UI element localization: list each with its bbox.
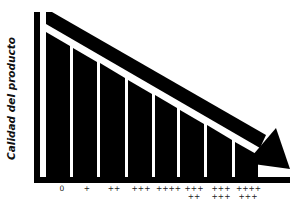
quality-decline-diagram: [0, 0, 301, 208]
bar-2: [73, 48, 97, 177]
bar-1: [46, 32, 70, 177]
y-axis-bar: [34, 12, 40, 183]
bar-6: [180, 110, 204, 177]
x-label-line: ++: [102, 185, 126, 193]
bars: [46, 32, 258, 177]
x-label-6: +++++: [182, 185, 206, 201]
bar-4: [128, 80, 152, 177]
y-axis-label: Calidad del producto: [5, 37, 17, 160]
x-label-line: +: [75, 185, 99, 193]
x-label-1: 0: [50, 185, 74, 193]
x-label-line: 0: [50, 185, 74, 193]
x-label-line: +++: [129, 185, 153, 193]
bar-7: [207, 125, 232, 177]
x-label-2: +: [75, 185, 99, 193]
x-label-7: ++++++: [209, 185, 233, 201]
x-label-3: ++: [102, 185, 126, 193]
x-label-4: +++: [129, 185, 153, 193]
x-label-line: +++: [236, 193, 260, 201]
bar-3: [100, 63, 125, 177]
x-label-5: ++++: [156, 185, 180, 193]
x-label-line: ++++: [156, 185, 180, 193]
x-label-line: ++: [182, 193, 206, 201]
bar-5: [155, 95, 177, 177]
x-axis-baseline: [34, 177, 290, 183]
bar-8-lower: [235, 165, 258, 177]
x-label-line: +++: [209, 193, 233, 201]
x-label-8: +++++++: [236, 185, 260, 201]
